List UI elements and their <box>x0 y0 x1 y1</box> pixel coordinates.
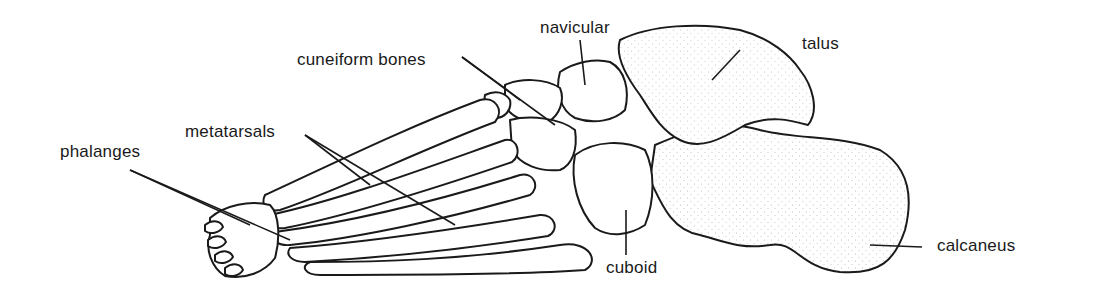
navicular-bone <box>558 60 627 121</box>
label-talus: talus <box>802 34 839 54</box>
label-cuneiform-bones: cuneiform bones <box>297 50 426 70</box>
label-calcaneus: calcaneus <box>937 236 1015 256</box>
label-metatarsals: metatarsals <box>185 122 275 142</box>
cuneiform-bone-1 <box>505 80 562 123</box>
label-cuboid: cuboid <box>606 258 657 278</box>
label-navicular: navicular <box>540 18 610 38</box>
label-phalanges: phalanges <box>60 142 140 162</box>
cuneiform-bone-2 <box>510 118 576 171</box>
cuboid-bone <box>574 143 653 234</box>
